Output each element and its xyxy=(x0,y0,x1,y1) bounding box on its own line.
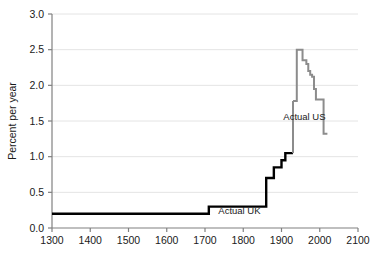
x-tick-label: 1800 xyxy=(232,234,256,246)
chart-container: 0.00.51.01.52.02.53.0 130014001500160017… xyxy=(0,0,371,258)
series-annotation-actual-uk: Actual UK xyxy=(218,205,261,216)
x-axis xyxy=(52,228,358,232)
x-tick-label: 1700 xyxy=(193,234,217,246)
data-series xyxy=(52,50,327,214)
grid-lines xyxy=(52,14,358,192)
chart-plot-svg: 0.00.51.01.52.02.53.0 130014001500160017… xyxy=(0,0,371,258)
x-tick-label: 2000 xyxy=(308,234,332,246)
x-tick-label: 1600 xyxy=(155,234,179,246)
y-tick-label: 0.0 xyxy=(29,222,44,234)
y-tick-label: 1.0 xyxy=(29,150,44,162)
y-axis xyxy=(48,14,52,228)
y-tick-label: 2.0 xyxy=(29,79,44,91)
y-tick-label: 0.5 xyxy=(29,186,44,198)
series-annotation-actual-us: Actual US xyxy=(283,111,325,122)
x-tick-label: 1500 xyxy=(117,234,141,246)
y-axis-label: Percent per year xyxy=(6,82,18,160)
y-tick-label: 1.5 xyxy=(29,115,44,127)
y-tick-label: 2.5 xyxy=(29,43,44,55)
y-tick-labels: 0.00.51.01.52.02.53.0 xyxy=(29,8,44,234)
x-tick-label: 1300 xyxy=(40,234,64,246)
x-tick-labels: 130014001500160017001800190020002100 xyxy=(40,234,370,246)
x-tick-label: 1400 xyxy=(79,234,103,246)
series-annotations: Actual UKActual US xyxy=(218,111,325,217)
y-tick-label: 3.0 xyxy=(29,8,44,20)
y-axis-title: Percent per year xyxy=(6,82,18,160)
x-tick-label: 1900 xyxy=(270,234,294,246)
x-tick-label: 2100 xyxy=(346,234,370,246)
